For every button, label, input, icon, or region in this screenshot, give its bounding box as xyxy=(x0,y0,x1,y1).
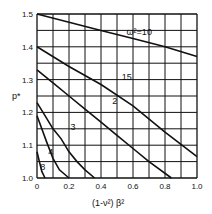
curve-label: 8 xyxy=(40,162,45,172)
y-tick-labels: 1.01.11.21.31.41.5 xyxy=(22,10,34,183)
x-tick: 0.6 xyxy=(127,182,139,191)
curve-label: ω²=10 xyxy=(127,27,152,37)
curve-label: 15 xyxy=(122,72,132,82)
chart: ω²=10152348 00.20.40.60.81.0 1.01.11.21.… xyxy=(0,0,212,214)
x-tick: 1.0 xyxy=(191,182,203,191)
y-tick: 1.2 xyxy=(22,108,34,117)
x-axis-label: (1-ν²) β² xyxy=(92,198,124,208)
y-tick: 1.4 xyxy=(22,43,34,52)
y-tick: 1.0 xyxy=(22,174,34,183)
x-tick: 0.8 xyxy=(159,182,171,191)
curve-label: 2 xyxy=(112,96,117,106)
x-tick: 0.4 xyxy=(95,182,107,191)
x-tick-labels: 00.20.40.60.81.0 xyxy=(35,182,203,191)
y-axis-label: p* xyxy=(12,91,21,101)
curve-label: 4 xyxy=(48,147,53,157)
x-tick: 0.2 xyxy=(63,182,75,191)
x-tick: 0 xyxy=(35,182,40,191)
y-tick: 1.5 xyxy=(22,10,34,19)
y-tick: 1.1 xyxy=(22,141,34,150)
curve-label: 3 xyxy=(71,122,76,132)
y-tick: 1.3 xyxy=(22,76,34,85)
